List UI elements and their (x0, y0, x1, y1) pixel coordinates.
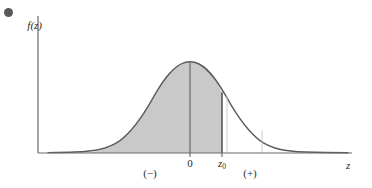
normal-distribution-figure: f(z) z 0 z0 (−) (+) (0, 0, 372, 188)
tick-label-z-critical: z0 (218, 158, 226, 169)
x-axis-label: z (346, 160, 350, 171)
region-label-negative: (−) (143, 168, 157, 179)
plot-canvas (0, 0, 372, 188)
shaded-area-region (75, 62, 222, 153)
tick-label-z-critical-subscript: 0 (222, 162, 226, 171)
y-axis-label: f(z) (27, 20, 42, 31)
tick-label-zero: 0 (187, 158, 193, 169)
region-label-positive: (+) (243, 168, 257, 179)
